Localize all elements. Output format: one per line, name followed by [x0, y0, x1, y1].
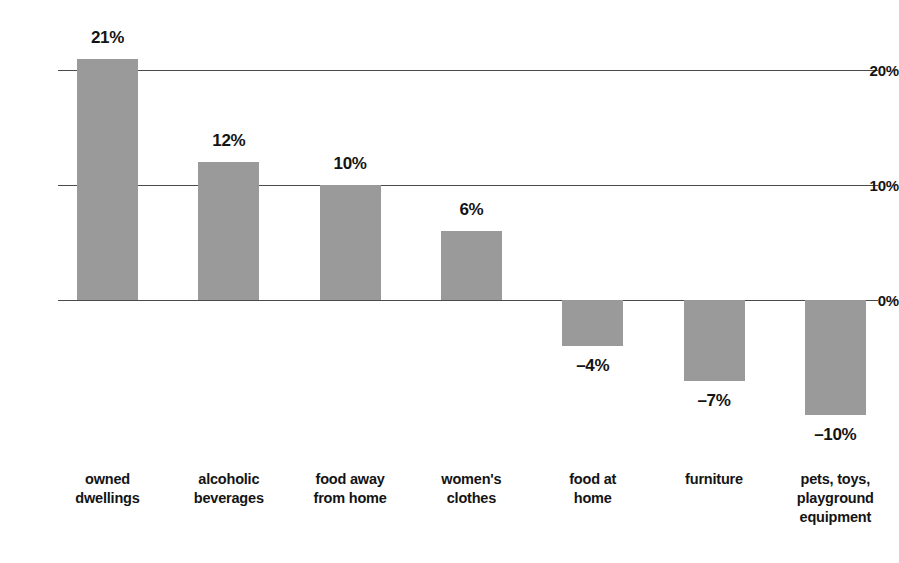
- category-label: food away from home: [288, 470, 413, 508]
- y-axis-tick-label: 10%: [847, 178, 899, 193]
- y-axis-tick-mark: [58, 300, 70, 301]
- bar-value-label: –10%: [775, 426, 896, 443]
- bar-value-label: –4%: [532, 357, 653, 374]
- bar: [77, 59, 138, 301]
- category-label: food at home: [530, 470, 655, 508]
- bar: [562, 300, 623, 346]
- y-axis-tick-mark: [58, 185, 70, 186]
- bar-value-label: 10%: [290, 155, 411, 172]
- bar: [441, 231, 502, 300]
- category-label: owned dwellings: [45, 470, 170, 508]
- category-label: furniture: [652, 470, 777, 489]
- bar-chart: 0%10%20% 21%12%10%6%–4%–7%–10% owned dwe…: [0, 0, 899, 563]
- gridline-0: [68, 300, 878, 301]
- gridline-20: [68, 70, 878, 71]
- bar-value-label: 6%: [411, 201, 532, 218]
- category-label: alcoholic beverages: [166, 470, 291, 508]
- bar-value-label: 21%: [47, 29, 168, 46]
- bar-value-label: –7%: [654, 392, 775, 409]
- bar: [805, 300, 866, 415]
- bar-value-label: 12%: [168, 132, 289, 149]
- category-label: women's clothes: [409, 470, 534, 508]
- y-axis-tick-mark: [58, 70, 70, 71]
- category-label: pets, toys, playground equipment: [773, 470, 898, 527]
- bar: [320, 185, 381, 300]
- bar: [198, 162, 259, 300]
- bar: [684, 300, 745, 381]
- y-axis-tick-label: 20%: [847, 63, 899, 78]
- gridline-10: [68, 185, 878, 186]
